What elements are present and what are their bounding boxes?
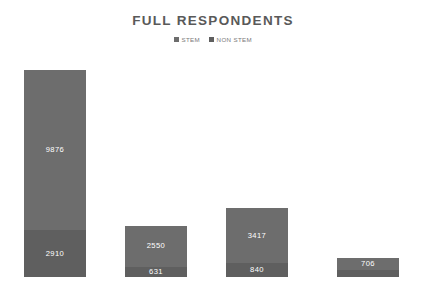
bar-group-hispanic: 3417 840 HISPANIC (226, 208, 288, 277)
bar-value-hispanic-stem: 3417 (248, 232, 267, 240)
bar-segment-black-non-stem[interactable]: 631 (125, 267, 187, 277)
bar-segment-white-non-stem[interactable]: 2910 (24, 230, 86, 277)
bar-stack-hispanic[interactable]: 3417 840 (226, 208, 288, 277)
bar-group-black: 2550 631 BLACK (125, 226, 187, 277)
bar-value-black-stem: 2550 (147, 242, 166, 250)
bar-group-asian: 706 459 ASIAN (337, 258, 399, 277)
bar-value-asian-stem: 706 (361, 260, 375, 268)
bar-segment-asian-stem[interactable]: 706 (337, 258, 399, 269)
bar-value-black-non-stem: 631 (149, 268, 163, 276)
plot-area: 9876 2910 WHITE 2550 631 BLACK (0, 0, 426, 302)
bar-value-hispanic-non-stem: 840 (250, 266, 264, 274)
bar-segment-white-stem[interactable]: 9876 (24, 70, 86, 230)
bar-group-white: 9876 2910 WHITE (24, 70, 86, 277)
bar-stack-white[interactable]: 9876 2910 (24, 70, 86, 277)
bar-value-white-non-stem: 2910 (46, 250, 65, 258)
bar-segment-asian-non-stem[interactable]: 459 (337, 270, 399, 277)
bar-segment-hispanic-non-stem[interactable]: 840 (226, 263, 288, 277)
bar-stack-black[interactable]: 2550 631 (125, 226, 187, 277)
bar-value-white-stem: 9876 (46, 146, 65, 154)
chart-root: FULL RESPONDENTS STEM NON STEM 9876 2910… (0, 0, 426, 302)
bar-segment-hispanic-stem[interactable]: 3417 (226, 208, 288, 263)
bar-stack-asian[interactable]: 706 459 (337, 258, 399, 277)
bar-segment-black-stem[interactable]: 2550 (125, 226, 187, 267)
